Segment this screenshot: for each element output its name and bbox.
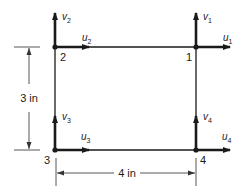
node-1-dot bbox=[193, 44, 198, 49]
node-4-dot bbox=[193, 147, 198, 152]
diagram-canvas: 1 2 3 4 v2 u2 v1 u1 v3 u3 v4 u4 bbox=[0, 0, 248, 192]
node-label-2: 2 bbox=[60, 51, 66, 63]
width-dimension-label: 4 in bbox=[118, 167, 136, 179]
node-label-1: 1 bbox=[186, 51, 192, 63]
element-edges bbox=[55, 47, 196, 150]
node-2-dot bbox=[52, 44, 57, 49]
dof-label-v2: v2 bbox=[62, 11, 71, 24]
node-label-3: 3 bbox=[44, 154, 50, 166]
node-dots bbox=[52, 44, 198, 152]
dof-label-v4: v4 bbox=[203, 111, 212, 124]
height-dimension-label: 3 in bbox=[20, 92, 38, 104]
node-3-dot bbox=[52, 147, 57, 152]
dof-label-v1: v1 bbox=[203, 11, 212, 24]
fe-element-diagram: 1 2 3 4 v2 u2 v1 u1 v3 u3 v4 u4 bbox=[0, 0, 248, 192]
height-dimension: 3 in bbox=[14, 47, 40, 150]
dof-labels: v2 u2 v1 u1 v3 u3 v4 u4 bbox=[62, 11, 233, 144]
dof-label-u2: u2 bbox=[82, 32, 92, 45]
node-label-4: 4 bbox=[200, 154, 206, 166]
dof-label-u1: u1 bbox=[223, 32, 233, 45]
dof-label-u4: u4 bbox=[222, 131, 232, 144]
width-dimension: 4 in bbox=[56, 158, 196, 186]
dof-label-u3: u3 bbox=[81, 131, 91, 144]
dof-label-v3: v3 bbox=[62, 111, 71, 124]
